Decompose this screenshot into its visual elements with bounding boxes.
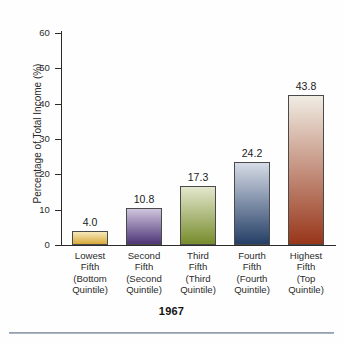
chart-figure: Percentage of Total Income (%) 60 50 40 … xyxy=(0,0,343,344)
cat-line-3: (Second xyxy=(115,273,173,284)
cat-line-3: (Bottom xyxy=(61,273,119,284)
bar-fourth-fifth[interactable] xyxy=(234,162,270,245)
cat-line-2: Fifth xyxy=(223,261,281,272)
x-category-label-second-fifth: Second Fifth (Second Quintile) xyxy=(115,250,173,296)
x-category-label-lowest-fifth: Lowest Fifth (Bottom Quintile) xyxy=(61,250,119,296)
y-tick-label-20: 20 xyxy=(26,169,50,179)
cat-line-4: Quintile) xyxy=(223,284,281,295)
bar-value-label-lowest-fifth: 4.0 xyxy=(64,217,116,228)
cat-line-1: Second xyxy=(115,250,173,261)
y-tick-label-0: 0 xyxy=(26,240,50,250)
cat-line-1: Fourth xyxy=(223,250,281,261)
x-category-label-third-fifth: Third Fifth (Third Quintile) xyxy=(169,250,227,296)
cat-line-4: Quintile) xyxy=(61,284,119,295)
cat-line-3: (Third xyxy=(169,273,227,284)
bar-value-label-fourth-fifth: 24.2 xyxy=(226,148,278,159)
cat-line-4: Quintile) xyxy=(115,284,173,295)
cat-line-1: Lowest xyxy=(61,250,119,261)
x-category-label-fourth-fifth: Fourth Fifth (Fourth Quintile) xyxy=(223,250,281,296)
bar-value-label-third-fifth: 17.3 xyxy=(172,172,224,183)
cat-line-4: Quintile) xyxy=(169,284,227,295)
y-tick-label-40: 40 xyxy=(26,99,50,109)
cat-line-1: Highest xyxy=(277,250,335,261)
cat-line-2: Fifth xyxy=(115,261,173,272)
y-tick-label-30: 30 xyxy=(26,134,50,144)
cat-line-4: Quintile) xyxy=(277,284,335,295)
y-tick-label-50: 50 xyxy=(26,63,50,73)
plot-area: 4.0 10.8 17.3 24.2 43.8 xyxy=(62,33,335,245)
bar-third-fifth[interactable] xyxy=(180,186,216,245)
bar-second-fifth[interactable] xyxy=(126,208,162,245)
x-category-label-highest-fifth: Highest Fifth (Top Quintile) xyxy=(277,250,335,296)
chart-year-title: 1967 xyxy=(0,305,343,317)
y-tick-label-60: 60 xyxy=(26,28,50,38)
y-tick-label-10: 10 xyxy=(26,205,50,215)
bar-highest-fifth[interactable] xyxy=(288,95,324,245)
bar-value-label-second-fifth: 10.8 xyxy=(118,194,170,205)
cat-line-1: Third xyxy=(169,250,227,261)
cat-line-3: (Top xyxy=(277,273,335,284)
cat-line-2: Fifth xyxy=(277,261,335,272)
bar-lowest-fifth[interactable] xyxy=(72,231,108,245)
x-axis-line xyxy=(61,245,336,246)
cat-line-3: (Fourth xyxy=(223,273,281,284)
cat-line-2: Fifth xyxy=(169,261,227,272)
bottom-divider xyxy=(9,332,334,334)
bar-value-label-highest-fifth: 43.8 xyxy=(280,81,332,92)
cat-line-2: Fifth xyxy=(61,261,119,272)
